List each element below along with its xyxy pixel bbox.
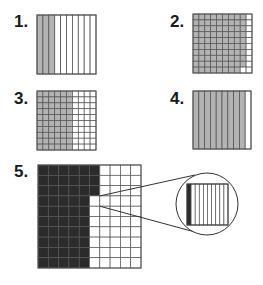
grid-1	[37, 15, 96, 74]
magnifier-circle	[176, 173, 238, 235]
fraction-grids-diagram	[0, 0, 263, 285]
grid-5	[38, 165, 141, 268]
grid-3	[37, 91, 96, 150]
grid-4	[193, 91, 251, 149]
grid-2	[193, 14, 252, 73]
